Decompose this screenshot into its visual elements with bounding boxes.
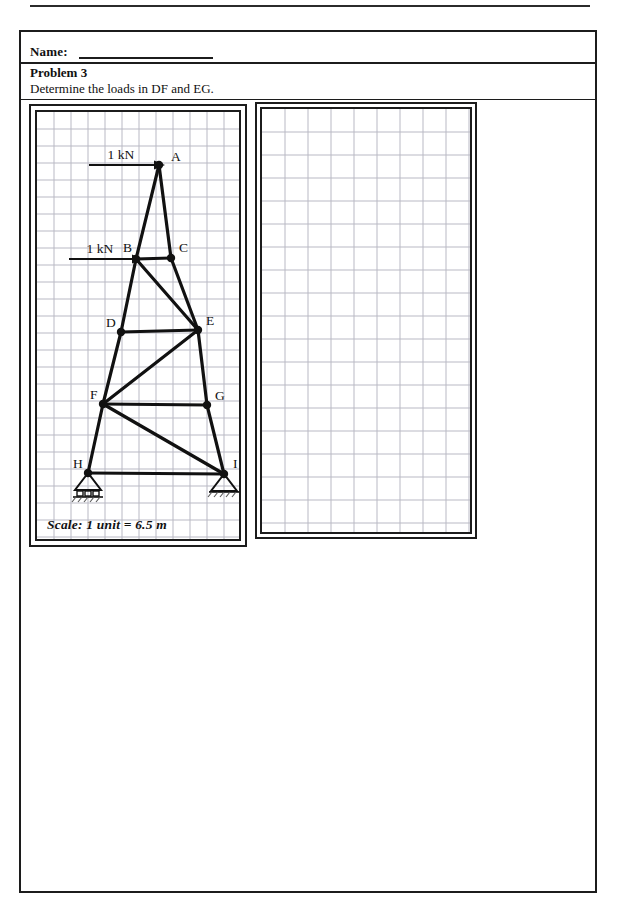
problem-statement: Determine the loads in DF and EG. [30,81,214,97]
truss-joint-I [220,470,228,478]
work-panel[interactable] [255,102,477,539]
joint-label-E: E [206,313,214,328]
joint-label-B: B [123,240,132,255]
load-top-arrow: 1 kN [89,147,165,170]
problem-header: Problem 3 Determine the loads in DF and … [21,64,595,100]
truss-joint-E [194,326,202,334]
truss-joint-H [84,469,92,477]
work-area-grid[interactable] [262,109,472,534]
truss-joint-D [117,328,125,336]
truss-joint-C [167,254,175,262]
worksheet-page-frame: Name: Problem 3 Determine the loads in D… [19,30,597,893]
name-row: Name: [21,32,595,64]
truss-diagram: ABCDEFGHI1 kN1 kN [37,112,241,541]
figure-panel-inner: ABCDEFGHI1 kN1 kN Scale: 1 unit = 6.5 m [35,110,241,541]
joint-label-G: G [215,388,225,403]
figure-panel: ABCDEFGHI1 kN1 kN Scale: 1 unit = 6.5 m [29,104,247,547]
joint-label-A: A [171,149,181,164]
joint-label-H: H [73,456,83,471]
work-panel-inner[interactable] [260,107,472,534]
truss-joint-F [99,400,107,408]
truss-joint-G [203,401,211,409]
joint-label-C: C [179,240,188,255]
joint-label-I: I [233,456,238,471]
joint-label-D: D [106,315,116,330]
scale-note: Scale: 1 unit = 6.5 m [47,517,167,533]
joint-label-F: F [90,387,98,402]
name-label: Name: [30,44,68,60]
problem-title: Problem 3 [30,65,87,81]
page-top-rule [30,5,590,7]
support-H-roller [72,473,103,502]
load-mid-label: 1 kN [87,241,114,256]
load-top-label: 1 kN [108,147,135,162]
name-write-in-line[interactable] [79,57,213,59]
